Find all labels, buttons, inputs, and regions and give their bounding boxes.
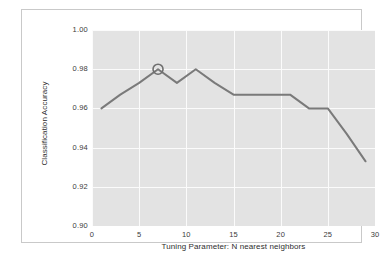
x-axis-tick-label: 10 bbox=[171, 230, 201, 239]
x-axis-tick-label: 30 bbox=[360, 230, 383, 239]
y-axis-tick-label: 0.92 bbox=[42, 183, 88, 191]
x-axis-tick-label: 25 bbox=[313, 230, 343, 239]
x-axis-tick-label: 5 bbox=[124, 230, 154, 239]
chart-figure: 0.900.920.940.960.981.00 Classification … bbox=[0, 0, 383, 258]
x-axis-tick-label: 0 bbox=[77, 230, 107, 239]
x-axis-tick-labels: 051015202530 bbox=[92, 230, 375, 242]
y-axis-tick-label: 0.96 bbox=[42, 104, 88, 112]
figure-frame: 0.900.920.940.960.981.00 Classification … bbox=[21, 9, 362, 243]
y-axis-tick-label: 0.90 bbox=[42, 222, 88, 230]
y-axis-title: Classification Accuracy bbox=[40, 49, 49, 199]
line-path bbox=[101, 69, 365, 161]
plot-area bbox=[92, 30, 375, 226]
y-axis-tick-label: 0.94 bbox=[42, 144, 88, 152]
y-axis-tick-label: 1.00 bbox=[42, 26, 88, 34]
x-axis-tick-label: 15 bbox=[219, 230, 249, 239]
x-axis-title: Tuning Parameter: N nearest neighbors bbox=[92, 242, 375, 251]
x-axis-tick-label: 20 bbox=[266, 230, 296, 239]
y-axis-tick-label: 0.98 bbox=[42, 65, 88, 73]
accuracy-line-series bbox=[92, 30, 375, 226]
